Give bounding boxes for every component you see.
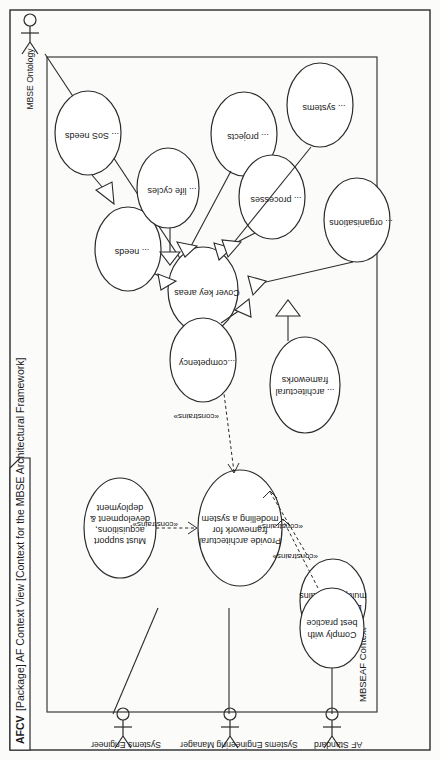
- frame-id-label: AFCV: [14, 715, 26, 744]
- use-case-label-main-line1: Provide architectural: [199, 536, 281, 546]
- stereotype-constrains-hub: «constrains»: [173, 412, 219, 421]
- use-case-label-constraint3-line2: best practice: [306, 618, 357, 628]
- use-case-comply-with-best-practice-final-node[interactable]: Comply with best practice Comply with be…: [300, 588, 364, 668]
- actor-af-standard[interactable]: AF Standard: [314, 708, 362, 750]
- use-case-systems[interactable]: ... systems: [287, 63, 353, 147]
- association-systems-engineer: [113, 608, 158, 714]
- actor-head-icon: [224, 708, 236, 720]
- use-case-life-cycles[interactable]: ... life cycles: [137, 148, 199, 228]
- actor-label-systems-engineer: Systems Engineer: [91, 740, 161, 750]
- actor-systems-engineering-manager[interactable]: Systems Engineering Manager: [180, 708, 298, 750]
- use-case-processes[interactable]: ... processes: [239, 155, 305, 239]
- use-case-label-systems: ... systems: [302, 103, 346, 113]
- frame-kind-label: [Package] AF Context View [Context for t…: [14, 357, 26, 711]
- use-case-label-arch-frameworks-line1: ... architectural: [275, 387, 334, 397]
- use-case-label-constraint1-line1: Must support: [93, 536, 146, 546]
- generalization-arrowhead: [96, 182, 114, 204]
- generalization-arrowhead: [248, 276, 266, 295]
- actor-label-systems-engineering-manager: Systems Engineering Manager: [180, 740, 298, 750]
- use-case-label-sos-needs: ... SoS needs: [64, 131, 119, 141]
- actor-mbse-ontology[interactable]: MBSE Ontology: [21, 14, 39, 110]
- generalization-arrowhead: [235, 299, 251, 317]
- actor-label-af-standard: AF Standard: [314, 740, 362, 750]
- actor-head-icon: [24, 14, 36, 26]
- use-case-label-arch-frameworks-line2: frameworks: [281, 375, 328, 385]
- use-case-sos-needs[interactable]: ... SoS needs: [55, 91, 121, 175]
- rotated-diagram-wrapper: AFCV [Package] AF Context View [Context …: [0, 0, 440, 760]
- actor-head-icon: [117, 708, 129, 720]
- actor-systems-engineer[interactable]: Systems Engineer: [91, 708, 161, 750]
- use-case-label-competency: ...competency: [178, 358, 235, 368]
- actor-label-mbse-ontology: MBSE Ontology: [25, 48, 35, 110]
- use-case-label-constraint1-line4: deployment: [96, 503, 143, 513]
- use-case-organisations[interactable]: ... organisations: [324, 178, 393, 262]
- use-case-label-processes: ... processes: [250, 195, 302, 205]
- use-case-label-needs: ... needs: [114, 247, 149, 257]
- use-case-label-constraint3-line1: Comply with: [307, 630, 356, 640]
- use-case-label-life-cycles: ... life cycles: [147, 186, 197, 196]
- use-case-label-cover-key-areas: Cover key areas: [174, 288, 240, 298]
- stereotype-constrains-3: «constrains»: [272, 552, 318, 561]
- use-case-label-organisations: ... organisations: [329, 218, 393, 228]
- use-case-architectural-frameworks[interactable]: ... architectural frameworks ... archite…: [270, 337, 340, 433]
- diagram-screenshot: AFCV [Package] AF Context View [Context …: [0, 0, 440, 760]
- use-case-label-projects: ... projects: [227, 132, 269, 142]
- generalization-organisations-to-hub: [253, 262, 353, 285]
- stereotype-constrains-2: «constrains»: [257, 522, 303, 531]
- generalization-arrowhead: [276, 300, 300, 316]
- uml-use-case-diagram: AFCV [Package] AF Context View [Context …: [0, 0, 440, 760]
- use-case-competency[interactable]: ...competency: [170, 318, 236, 402]
- stereotype-constrains-1: «constrains»: [132, 520, 178, 529]
